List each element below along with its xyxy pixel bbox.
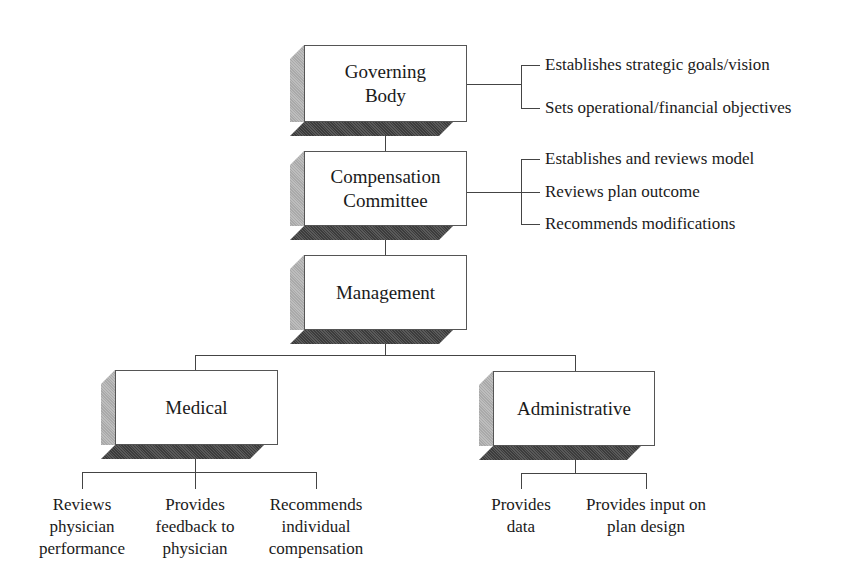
- administrative-label: Administrative: [493, 371, 655, 446]
- admin-bracket-stem: [575, 460, 576, 474]
- connector-to-administrative: [575, 355, 576, 371]
- medical-bracket-drop-3: [316, 472, 317, 489]
- org-diagram: Governing Body Establishes strategic goa…: [0, 0, 856, 580]
- medical-responsibility-1: Reviews physician performance: [27, 494, 137, 560]
- box-side-shade: [479, 371, 493, 446]
- box-side-shade: [101, 370, 115, 445]
- cc-bracket-tick-1: [521, 159, 540, 160]
- box-bottom-shade: [290, 122, 453, 136]
- connector-to-medical: [195, 355, 196, 371]
- admin-bracket-bar: [521, 473, 646, 474]
- cc-bracket-stem: [467, 192, 521, 193]
- admin-responsibility-2: Provides input on plan design: [576, 494, 716, 538]
- box-bottom-shade: [101, 445, 264, 459]
- cc-responsibility-2: Reviews plan outcome: [545, 181, 700, 203]
- gb-bracket-spine: [521, 65, 522, 109]
- medical-bracket-bar: [82, 472, 317, 473]
- cc-bracket-tick-3: [521, 224, 540, 225]
- connector-cc-mgmt: [385, 240, 386, 255]
- compensation-committee-label: Compensation Committee: [304, 151, 467, 226]
- box-side-shade: [290, 45, 304, 122]
- admin-bracket-drop-1: [521, 473, 522, 489]
- medical-responsibility-2: Provides feedback to physician: [140, 494, 250, 560]
- compensation-committee-box: Compensation Committee: [304, 151, 467, 226]
- gb-bracket-tick-2: [521, 108, 540, 109]
- management-label: Management: [304, 255, 467, 330]
- admin-responsibility-1: Provides data: [476, 494, 566, 538]
- administrative-box: Administrative: [493, 371, 655, 446]
- medical-bracket-drop-1: [82, 472, 83, 489]
- gb-bracket-tick-1: [521, 65, 540, 66]
- box-side-shade: [290, 151, 304, 226]
- gb-responsibility-2: Sets operational/financial objectives: [545, 97, 791, 119]
- box-bottom-shade: [290, 330, 453, 344]
- management-box: Management: [304, 255, 467, 330]
- mgmt-split-bar: [195, 355, 576, 356]
- medical-bracket-stem: [195, 459, 196, 489]
- admin-bracket-drop-2: [646, 473, 647, 489]
- cc-responsibility-1: Establishes and reviews model: [545, 148, 754, 170]
- cc-responsibility-3: Recommends modifications: [545, 213, 735, 235]
- connector-gb-cc: [385, 135, 386, 151]
- box-bottom-shade: [290, 226, 453, 240]
- governing-body-box: Governing Body: [304, 45, 467, 122]
- gb-bracket-stem: [467, 84, 521, 85]
- box-side-shade: [290, 255, 304, 330]
- cc-bracket-tick-2: [521, 192, 540, 193]
- medical-label: Medical: [115, 370, 278, 445]
- medical-box: Medical: [115, 370, 278, 445]
- medical-responsibility-3: Recommends individual compensation: [256, 494, 376, 560]
- governing-body-label: Governing Body: [304, 45, 467, 122]
- gb-responsibility-1: Establishes strategic goals/vision: [545, 54, 770, 76]
- box-bottom-shade: [479, 446, 641, 460]
